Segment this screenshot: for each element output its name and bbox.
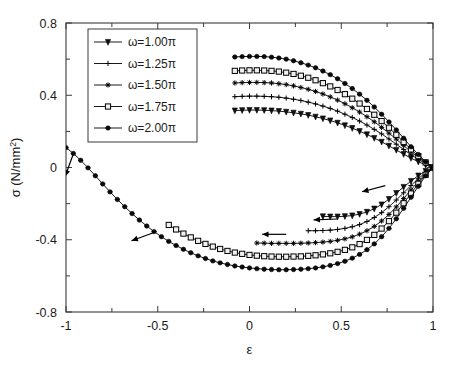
sigma-epsilon-plot: -1-0.500.510.80.40-0.4-0.8εσ (N/mm2)ω=1.… — [0, 0, 451, 365]
x-axis-label: ε — [247, 342, 253, 357]
y-tick-label: 0.8 — [40, 17, 57, 31]
series-markers — [320, 165, 435, 220]
y-tick-label: 0 — [50, 161, 57, 175]
series-markers — [306, 165, 436, 233]
legend-label: ω=2.00π — [128, 121, 176, 135]
y-tick-label: -0.4 — [35, 233, 57, 247]
y-tick-label: -0.8 — [35, 306, 57, 320]
arrow-0 — [362, 186, 385, 193]
y-tick-label: 0.4 — [40, 89, 57, 103]
arrow-3 — [132, 233, 155, 242]
arrow-2 — [262, 231, 286, 237]
series-3 — [166, 68, 435, 260]
series-1 — [232, 94, 435, 234]
legend-label: ω=1.50π — [128, 78, 176, 92]
arrow-1 — [314, 217, 338, 223]
legend-label: ω=1.00π — [128, 35, 176, 49]
series-markers — [232, 80, 435, 170]
legend: ω=1.00πω=1.25πω=1.50πω=1.75πω=2.00π — [88, 29, 197, 142]
x-tick-label: -0.5 — [147, 319, 169, 333]
y-axis-label: σ (N/mm2) — [8, 138, 23, 198]
x-tick-label: 1 — [430, 319, 437, 333]
legend-label: ω=1.75π — [128, 100, 176, 114]
x-tick-label: -1 — [60, 319, 71, 333]
x-tick-label: 0 — [246, 319, 253, 333]
series-2 — [232, 80, 435, 246]
x-tick-label: 0.5 — [333, 319, 350, 333]
series-markers — [232, 94, 435, 171]
chart-figure: -1-0.500.510.80.40-0.4-0.8εσ (N/mm2)ω=1.… — [0, 0, 451, 365]
svg-text:σ (N/mm2): σ (N/mm2) — [8, 138, 23, 198]
legend-label: ω=1.25π — [128, 57, 176, 71]
